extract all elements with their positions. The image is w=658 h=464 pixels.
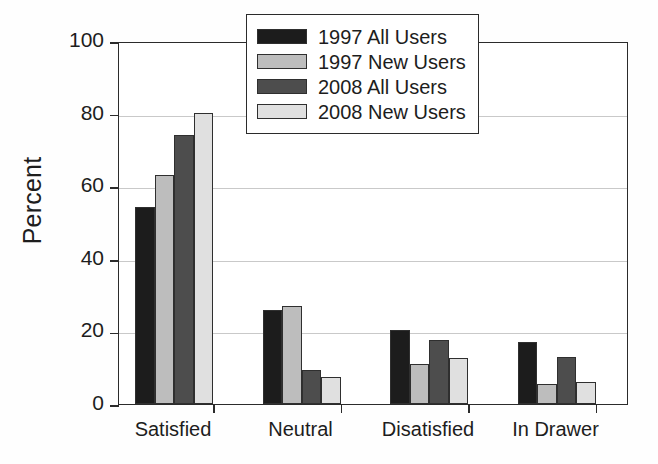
y-axis-tick-label: 100 — [44, 28, 104, 52]
bar — [518, 342, 538, 404]
bar — [321, 377, 341, 404]
legend-item-label: 2008 All Users — [318, 77, 447, 97]
legend-swatch-icon — [257, 79, 307, 94]
y-axis-tick — [110, 405, 119, 407]
y-axis-tick — [110, 115, 119, 117]
bar — [155, 175, 175, 404]
legend-item-label: 1997 All Users — [318, 27, 447, 47]
legend-item: 2008 New Users — [257, 99, 466, 124]
y-axis-tick — [110, 42, 119, 44]
x-axis-tick — [341, 404, 343, 413]
x-axis-tick — [468, 404, 470, 413]
bar — [576, 382, 596, 404]
x-axis-category-label: Disatisfied — [382, 418, 474, 441]
legend-swatch-icon — [257, 54, 307, 69]
x-axis-category-label: Satisfied — [135, 418, 212, 441]
x-axis-category-label: In Drawer — [512, 418, 599, 441]
bar — [537, 384, 557, 404]
legend-item-label: 1997 New Users — [318, 52, 466, 72]
y-axis-title: Percent — [18, 131, 47, 271]
x-axis-tick — [596, 404, 598, 413]
y-axis-tick-label: 80 — [44, 101, 104, 125]
bar — [135, 207, 155, 404]
bar — [263, 310, 283, 404]
legend-item: 1997 All Users — [257, 24, 466, 49]
y-axis-tick — [110, 333, 119, 335]
y-axis-tick — [110, 187, 119, 189]
chart-legend: 1997 All Users1997 New Users2008 All Use… — [246, 14, 479, 134]
bar — [557, 357, 577, 404]
y-axis-tick — [110, 260, 119, 262]
legend-swatch-icon — [257, 104, 307, 119]
legend-item-label: 2008 New Users — [318, 102, 466, 122]
y-axis-tick-label: 0 — [44, 391, 104, 415]
chart-figure: Percent 020406080100 SatisfiedNeutralDis… — [0, 0, 658, 464]
bar — [390, 330, 410, 404]
x-axis-category-label: Neutral — [268, 418, 332, 441]
bar — [194, 113, 214, 404]
legend-item: 2008 All Users — [257, 74, 466, 99]
bar — [174, 135, 194, 404]
y-axis-tick-label: 60 — [44, 173, 104, 197]
bar — [282, 306, 302, 404]
bar — [429, 340, 449, 404]
bar — [410, 364, 430, 404]
bar — [302, 370, 322, 404]
x-axis-tick — [213, 404, 215, 413]
legend-swatch-icon — [257, 29, 307, 44]
legend-item: 1997 New Users — [257, 49, 466, 74]
y-axis-tick-label: 40 — [44, 246, 104, 270]
y-axis-tick-label: 20 — [44, 318, 104, 342]
bar — [449, 358, 469, 404]
